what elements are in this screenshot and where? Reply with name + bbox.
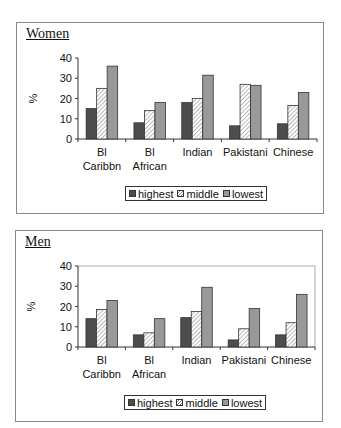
bar-highest	[134, 123, 145, 139]
x-category-label: Caribbn	[82, 368, 121, 380]
bar-lowest	[251, 85, 261, 139]
bar-lowest	[155, 103, 166, 139]
bar-middle	[192, 99, 203, 140]
women-bar-chart: 010203040%BlCaribbnBlAfricanIndianPakist…	[17, 23, 323, 213]
bar-lowest	[107, 66, 118, 139]
x-category-label: Pakistani	[223, 146, 268, 158]
y-axis-label: %	[27, 93, 39, 103]
x-category-label: African	[133, 160, 167, 172]
bar-lowest	[249, 309, 260, 347]
bar-highest	[86, 319, 97, 347]
men-legend: highest middle lowest	[124, 395, 266, 410]
bar-lowest	[203, 75, 214, 139]
legend-label-lowest: lowest	[231, 397, 262, 409]
y-tick-label: 10	[60, 113, 72, 125]
bar-highest	[276, 335, 287, 347]
x-category-label: Bl	[145, 146, 155, 158]
bar-highest	[182, 103, 193, 139]
x-category-label: Bl	[144, 354, 154, 366]
legend-label-middle: middle	[186, 188, 218, 200]
bar-middle	[144, 333, 155, 347]
legend-label-middle: middle	[185, 397, 217, 409]
y-tick-label: 40	[60, 260, 72, 272]
y-tick-label: 20	[60, 93, 72, 105]
bar-lowest	[298, 92, 309, 139]
bar-highest	[228, 340, 239, 347]
bar-lowest	[297, 294, 308, 347]
y-tick-label: 10	[60, 321, 72, 333]
legend-item-middle: middle	[177, 188, 218, 200]
middle-swatch-icon	[177, 190, 184, 197]
bar-highest	[133, 335, 144, 347]
y-tick-label: 30	[60, 72, 72, 84]
x-category-label: Pakistani	[222, 354, 267, 366]
women-chart-panel: Women 010203040%BlCaribbnBlAfricanIndian…	[16, 22, 324, 214]
bar-highest	[181, 318, 192, 347]
bar-lowest	[154, 319, 165, 347]
middle-swatch-icon	[176, 399, 183, 406]
bar-lowest	[202, 287, 213, 347]
women-legend: highest middle lowest	[125, 186, 267, 201]
bar-middle	[240, 84, 251, 139]
x-category-label: Bl	[97, 354, 107, 366]
legend-label-highest: highest	[138, 188, 173, 200]
legend-item-middle: middle	[176, 397, 217, 409]
x-category-label: Chinese	[273, 146, 313, 158]
legend-item-highest: highest	[128, 397, 172, 409]
x-category-label: Chinese	[271, 354, 311, 366]
y-tick-label: 0	[66, 133, 72, 145]
men-bar-chart: 010203040%BlCaribbnBlAfricanIndianPakist…	[16, 231, 322, 421]
x-category-label: Indian	[182, 354, 212, 366]
bar-middle	[96, 310, 107, 347]
bar-highest	[277, 124, 288, 139]
x-category-label: Caribbn	[83, 160, 122, 172]
bar-highest	[230, 126, 241, 139]
bar-middle	[286, 323, 297, 347]
x-category-label: Bl	[97, 146, 107, 158]
bar-highest	[86, 109, 97, 139]
highest-swatch-icon	[129, 190, 136, 197]
y-tick-label: 20	[60, 301, 72, 313]
highest-swatch-icon	[128, 399, 135, 406]
x-category-label: Indian	[183, 146, 213, 158]
y-axis-label: %	[25, 301, 37, 311]
bar-middle	[239, 329, 250, 347]
bar-lowest	[107, 300, 118, 347]
legend-label-lowest: lowest	[232, 188, 263, 200]
y-tick-label: 30	[60, 280, 72, 292]
legend-item-lowest: lowest	[223, 188, 263, 200]
bar-middle	[97, 88, 108, 139]
bar-middle	[191, 312, 202, 347]
lowest-swatch-icon	[222, 399, 229, 406]
x-category-label: African	[132, 368, 166, 380]
y-tick-label: 40	[60, 52, 72, 64]
y-tick-label: 0	[66, 341, 72, 353]
men-chart-panel: Men 010203040%BlCaribbnBlAfricanIndianPa…	[15, 230, 323, 422]
legend-label-highest: highest	[137, 397, 172, 409]
lowest-swatch-icon	[223, 190, 230, 197]
legend-item-highest: highest	[129, 188, 173, 200]
bar-middle	[288, 106, 299, 139]
legend-item-lowest: lowest	[222, 397, 262, 409]
bar-middle	[144, 111, 155, 139]
